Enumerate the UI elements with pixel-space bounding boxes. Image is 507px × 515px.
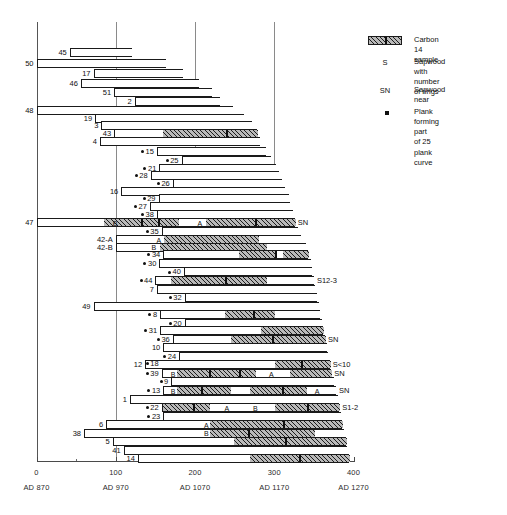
plank-label-group: 17	[48, 70, 91, 78]
plain-segment	[85, 430, 210, 437]
plank-curve-dot-icon	[135, 174, 138, 177]
plank-label-group: 38	[38, 430, 81, 438]
plank-curve-dot-icon	[385, 111, 389, 115]
sample-divider	[385, 37, 387, 44]
plank-id-label: 49	[82, 302, 90, 311]
plank-curve-dot-icon	[157, 182, 160, 185]
plank-curve-dot-icon	[146, 406, 149, 409]
plain-segment	[172, 378, 335, 385]
plank-bar[interactable]	[138, 454, 349, 463]
sample-divider	[299, 455, 301, 462]
plank-id-label: 46	[70, 79, 78, 88]
plank-bar[interactable]	[81, 79, 199, 88]
carbon14-swatch-icon	[368, 36, 402, 45]
legend-key-sn: SN	[368, 86, 402, 95]
sapwood-annotation: SN	[334, 370, 344, 378]
plank-id-label: 15	[146, 147, 154, 156]
plain-segment	[164, 251, 238, 258]
x-tick-label-400: 400	[324, 468, 384, 477]
plain-segment	[125, 447, 348, 454]
carbon14-sample-segment	[239, 251, 309, 258]
plank-curve-dot-icon	[134, 205, 137, 208]
plank-curve-dot-icon	[146, 230, 149, 233]
plank-id-label: 39	[150, 369, 158, 378]
plain-segment	[38, 60, 167, 67]
plank-id-label: 50	[25, 59, 33, 68]
carbon14-sample-segment	[206, 219, 296, 226]
sample-divider	[275, 251, 277, 258]
x-tick-400	[354, 457, 355, 461]
sapwood-annotation: SN	[339, 387, 349, 395]
y-axis-line	[37, 22, 38, 461]
plain-segment	[95, 70, 185, 77]
plank-curve-dot-icon	[141, 213, 144, 216]
plain-segment	[161, 311, 224, 318]
plank-label-group: 1	[84, 396, 127, 404]
plank-id-label: 8	[153, 310, 157, 319]
sample-divider	[141, 219, 143, 226]
x-tick-ad-label-100: AD 970	[86, 483, 146, 492]
plain-segment	[180, 353, 329, 360]
carbon14-sample-segment	[177, 370, 256, 377]
sample-divider	[226, 130, 228, 137]
carbon14-sample-segment	[210, 421, 343, 428]
carbon14-sample-segment	[158, 219, 179, 226]
plank-id-label: 51	[103, 88, 111, 97]
plank-id-label: 14	[127, 454, 135, 463]
plank-label-group: 43	[68, 130, 111, 138]
plank-label-group: 47	[0, 219, 34, 227]
plain-segment	[38, 107, 235, 114]
plank-bar[interactable]	[94, 69, 184, 78]
plank-curve-dot-icon	[168, 271, 171, 274]
carbon14-sample-segment	[163, 404, 211, 411]
plain-segment	[164, 413, 342, 420]
carbon14-sample-segment	[250, 387, 307, 394]
plain-segment	[161, 327, 261, 334]
sample-divider	[253, 311, 255, 318]
sample-divider	[248, 430, 250, 437]
plank-id-label: 7	[150, 285, 154, 294]
plank-id-label: 18	[150, 359, 158, 368]
plain-segment	[131, 396, 339, 403]
carbon14-sample-segment	[231, 336, 326, 343]
plank-curve-dot-icon	[147, 389, 150, 392]
plank-id-label: 10	[152, 343, 160, 352]
sample-letter-label: A	[198, 220, 203, 227]
sapwood-annotation: SN	[298, 219, 308, 227]
plank-id-label: 30	[148, 259, 156, 268]
plank-curve-dot-icon	[157, 338, 160, 341]
plank-label-group: 7	[111, 286, 154, 294]
plank-id-label: 17	[82, 69, 90, 78]
plank-id-label: 5	[105, 437, 109, 446]
plank-bar[interactable]: BA	[37, 218, 295, 227]
x-tick-ad-label-200: AD 1070	[165, 483, 225, 492]
plank-id-label: 38	[73, 429, 81, 438]
carbon14-sample-segment	[225, 311, 276, 318]
plain-segment	[115, 130, 163, 137]
plank-curve-dot-icon	[147, 415, 150, 418]
plank-label-group: 36	[127, 336, 170, 344]
plain-segment	[158, 211, 294, 218]
plank-curve-dot-icon	[146, 362, 149, 365]
plank-bar[interactable]	[70, 48, 132, 57]
plank-curve-dot-icon	[143, 197, 146, 200]
plank-bar[interactable]	[37, 59, 166, 68]
x-minortick-50	[76, 459, 77, 461]
plain-segment	[95, 303, 320, 310]
plank-curve-dot-icon	[147, 253, 150, 256]
dendrochronology-chart: 0AD 870100AD 970200AD 1070300AD 1170400A…	[0, 0, 507, 515]
plank-label-group: 23	[117, 413, 160, 421]
plain-segment	[160, 260, 311, 267]
x-tick-ad-label-300: AD 1170	[244, 483, 304, 492]
legend-label: Sapwood near	[414, 85, 445, 105]
plank-curve-dot-icon	[143, 167, 146, 170]
plank-curve-dot-icon	[166, 159, 169, 162]
plank-curve-dot-icon	[143, 262, 146, 265]
plank-bar[interactable]	[100, 137, 260, 146]
plain-segment	[115, 89, 213, 96]
plain-segment	[186, 294, 318, 301]
x-tick-label-0: 0	[7, 468, 67, 477]
carbon14-sample-segment	[234, 438, 347, 445]
plank-label-group: 42-B	[70, 244, 113, 252]
plank-curve-dot-icon	[141, 150, 144, 153]
